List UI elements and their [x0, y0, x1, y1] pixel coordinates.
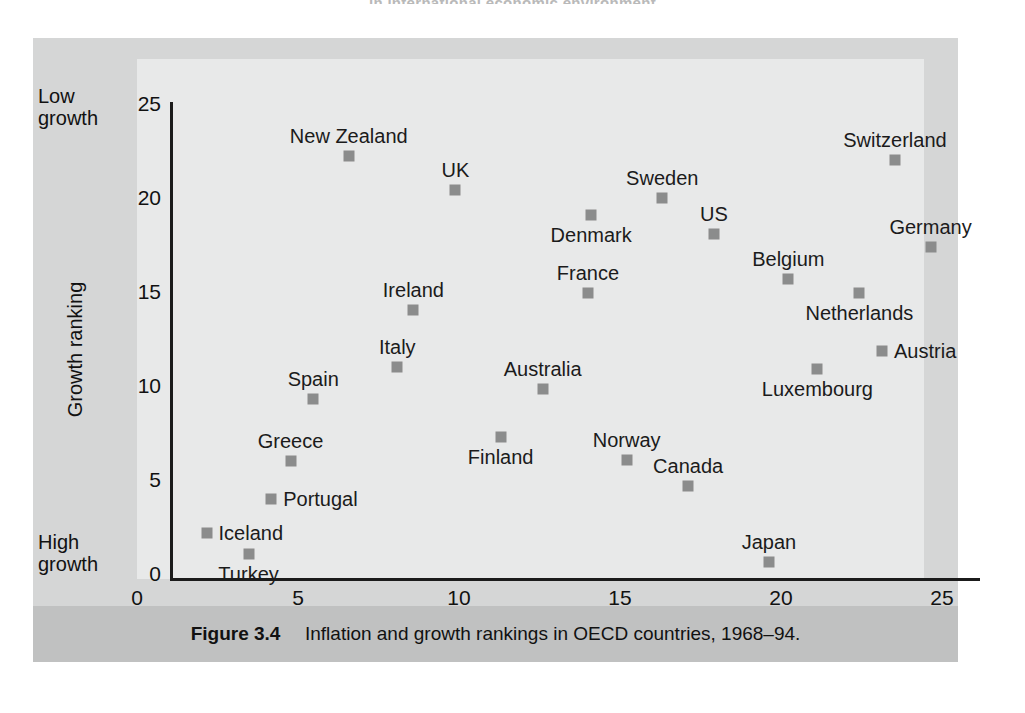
- data-point-marker: [243, 549, 254, 560]
- data-point-label: Turkey: [218, 563, 278, 586]
- data-point-label: Luxembourg: [762, 377, 873, 400]
- figure-panel: 25 20 15 10 5 0 0 5 10 15 20 25 Low grow…: [33, 38, 958, 662]
- data-point-label: Netherlands: [805, 301, 913, 324]
- data-point-label: Portugal: [283, 488, 358, 511]
- figure-number: Figure 3.4: [191, 623, 281, 644]
- running-head: in international economic environment: [0, 0, 1025, 4]
- data-point-label: Switzerland: [843, 128, 946, 151]
- y-axis-high-end-note-line1: Low: [38, 86, 75, 108]
- data-point-label: Denmark: [551, 223, 632, 246]
- data-point-marker: [392, 361, 403, 372]
- data-point-label: Finland: [468, 445, 534, 468]
- data-point-marker: [408, 304, 419, 315]
- x-axis-line: [170, 578, 980, 581]
- data-point-label: Belgium: [752, 248, 824, 271]
- data-point-label: New Zealand: [290, 125, 408, 148]
- data-point-label: Japan: [742, 530, 797, 553]
- data-point-marker: [343, 151, 354, 162]
- data-point-marker: [495, 431, 506, 442]
- data-point-marker: [582, 287, 593, 298]
- y-tick-0: 0: [121, 562, 161, 586]
- figure-caption: Figure 3.4 Inflation and growth rankings…: [191, 623, 801, 645]
- y-tick-20: 20: [121, 186, 161, 210]
- y-axis-high-end-note-line2: growth: [38, 108, 98, 130]
- y-tick-10: 10: [121, 374, 161, 398]
- data-point-label: US: [700, 202, 728, 225]
- data-point-label: Sweden: [626, 166, 698, 189]
- data-point-marker: [683, 481, 694, 492]
- data-point-marker: [621, 454, 632, 465]
- data-point-marker: [925, 242, 936, 253]
- data-point-marker: [854, 287, 865, 298]
- y-axis-title: Growth ranking: [64, 250, 87, 450]
- data-point-label: Austria: [894, 340, 956, 363]
- data-point-label: France: [557, 261, 619, 284]
- data-point-marker: [586, 209, 597, 220]
- data-point-label: Australia: [504, 358, 582, 381]
- data-point-marker: [889, 154, 900, 165]
- data-point-marker: [708, 228, 719, 239]
- y-axis-low-end-note-line2: growth: [38, 554, 98, 576]
- y-axis-line: [170, 102, 173, 581]
- data-point-label: Norway: [593, 428, 661, 451]
- data-point-label: Germany: [889, 216, 971, 239]
- data-point-marker: [266, 494, 277, 505]
- data-point-marker: [812, 363, 823, 374]
- data-point-marker: [308, 393, 319, 404]
- data-point-marker: [450, 185, 461, 196]
- data-point-marker: [763, 556, 774, 567]
- y-tick-15: 15: [121, 280, 161, 304]
- data-point-marker: [285, 456, 296, 467]
- data-point-marker: [657, 192, 668, 203]
- data-point-marker: [201, 528, 212, 539]
- data-point-marker: [783, 274, 794, 285]
- data-point-label: Spain: [288, 367, 339, 390]
- y-tick-25: 25: [121, 92, 161, 116]
- data-point-label: Ireland: [383, 278, 444, 301]
- data-point-marker: [877, 346, 888, 357]
- data-point-label: Italy: [379, 335, 416, 358]
- figure-caption-text: Inflation and growth rankings in OECD co…: [305, 623, 800, 644]
- data-point-label: Iceland: [219, 522, 284, 545]
- data-point-marker: [537, 384, 548, 395]
- data-point-label: UK: [442, 159, 470, 182]
- data-point-label: Greece: [258, 430, 324, 453]
- y-axis-low-end-note-line1: High: [38, 532, 79, 554]
- y-tick-5: 5: [121, 468, 161, 492]
- figure-caption-band: Figure 3.4 Inflation and growth rankings…: [33, 606, 958, 662]
- data-point-label: Canada: [653, 455, 723, 478]
